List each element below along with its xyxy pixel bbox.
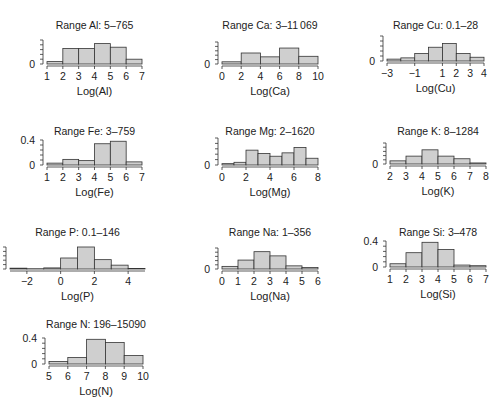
x-tick-label: 2 bbox=[453, 67, 459, 79]
x-tick-label: 5 bbox=[46, 370, 52, 382]
y-axis: 00.4 bbox=[20, 134, 43, 171]
y-tick-label: 0 bbox=[29, 58, 35, 70]
x-tick-label: −2 bbox=[21, 275, 33, 287]
panel-title: Range Al: 5–765 bbox=[56, 19, 134, 31]
y-axis: 0 bbox=[204, 42, 218, 70]
x-tick-label: 4 bbox=[257, 70, 263, 82]
x-tick-label: 4 bbox=[92, 171, 98, 183]
x-tick-label: 2 bbox=[60, 70, 66, 82]
x-tick-label: 7 bbox=[84, 370, 90, 382]
y-axis: 00.4 bbox=[22, 332, 45, 370]
panel-title: Range K: 8–1284 bbox=[397, 125, 479, 137]
x-axis-label: Log(K) bbox=[421, 185, 454, 197]
x-tick-label: 6 bbox=[291, 171, 297, 183]
x-axis: −3−11234 bbox=[381, 63, 487, 79]
histogram-panel: Range Na: 1–3560123456Log(Na)0 bbox=[204, 226, 321, 302]
x-axis-label: Log(Fe) bbox=[75, 186, 114, 198]
x-axis: 02468 bbox=[219, 167, 321, 183]
histogram-bar bbox=[470, 57, 484, 61]
histogram-bar bbox=[63, 48, 79, 64]
x-tick-label: 6 bbox=[451, 170, 457, 182]
x-tick-label: 3 bbox=[76, 70, 82, 82]
histogram-bar bbox=[387, 59, 401, 61]
histogram-panel: Range K: 8–12842345678Log(K)0 bbox=[372, 125, 489, 197]
histogram-bar bbox=[299, 56, 318, 64]
x-axis-label: Log(N) bbox=[79, 385, 113, 397]
panel-title: Range P: 0.1–146 bbox=[35, 226, 120, 238]
histogram-bar bbox=[110, 47, 126, 64]
x-tick-label: 6 bbox=[315, 275, 321, 287]
x-tick-label: −3 bbox=[381, 67, 393, 79]
histogram-bar bbox=[126, 59, 142, 64]
x-tick-label: 0 bbox=[219, 70, 225, 82]
x-axis-label: Log(P) bbox=[61, 290, 94, 302]
panel-title: Range Mg: 2–1620 bbox=[225, 125, 314, 137]
x-axis: 0123456 bbox=[219, 271, 321, 287]
histogram-bar bbox=[438, 249, 454, 267]
y-axis: 00.4 bbox=[363, 235, 386, 273]
histogram-bar bbox=[260, 57, 279, 64]
histogram-bar bbox=[63, 159, 79, 165]
x-tick-label: 2 bbox=[91, 275, 97, 287]
x-tick-label: 6 bbox=[123, 171, 129, 183]
x-tick-label: 6 bbox=[65, 370, 71, 382]
x-tick-label: 6 bbox=[277, 70, 283, 82]
x-axis: 2345678 bbox=[387, 166, 489, 182]
x-tick-label: 1 bbox=[440, 67, 446, 79]
x-tick-label: 1 bbox=[44, 171, 50, 183]
histogram-bar bbox=[10, 268, 27, 269]
histogram-panel: Range Ca: 3–11 0690246810Log(Ca)0 bbox=[204, 19, 324, 97]
histogram-bar bbox=[78, 247, 95, 269]
histogram-bar bbox=[95, 44, 111, 64]
x-tick-label: 4 bbox=[283, 275, 289, 287]
histogram-bar bbox=[415, 54, 429, 62]
x-tick-label: 0 bbox=[219, 275, 225, 287]
y-tick-label: 0 bbox=[204, 159, 210, 171]
x-tick-label: 8 bbox=[315, 171, 321, 183]
panel-title: Range Na: 1–356 bbox=[229, 226, 311, 238]
x-tick-label: 4 bbox=[435, 273, 441, 285]
x-tick-label: 8 bbox=[483, 170, 489, 182]
histogram-bar bbox=[254, 252, 270, 269]
x-axis: 5678910 bbox=[46, 366, 149, 382]
histogram-bar bbox=[282, 153, 294, 165]
histogram-bar bbox=[49, 361, 68, 364]
y-tick-label: 0 bbox=[29, 159, 35, 171]
x-tick-label: 1 bbox=[44, 70, 50, 82]
histogram-panel: Range Cu: 0.1–28−3−11234Log(Cu)0 bbox=[369, 19, 487, 94]
x-tick-label: 4 bbox=[267, 171, 273, 183]
panel-title: Range Si: 3–478 bbox=[399, 226, 477, 238]
x-tick-label: 3 bbox=[419, 273, 425, 285]
histogram-bar bbox=[280, 48, 299, 64]
histogram-bar bbox=[241, 53, 260, 64]
histogram-grid: Range Al: 5–7651234567Log(Al)0Range Ca: … bbox=[0, 0, 501, 412]
histogram-bar bbox=[94, 260, 111, 269]
x-axis-label: Log(Ca) bbox=[250, 85, 290, 97]
histogram-bar bbox=[294, 147, 306, 165]
x-tick-label: 7 bbox=[467, 170, 473, 182]
panel-title: Range Fe: 3–759 bbox=[54, 125, 135, 137]
histogram-bar bbox=[44, 268, 61, 269]
x-tick-label: 7 bbox=[483, 273, 489, 285]
histogram-bar bbox=[302, 267, 318, 269]
histogram-panel: Range Al: 5–7651234567Log(Al)0 bbox=[29, 19, 145, 97]
x-tick-label: 4 bbox=[125, 275, 131, 287]
x-axis-label: Log(Na) bbox=[250, 290, 290, 302]
histogram-bar bbox=[68, 358, 87, 365]
x-axis-label: Log(Si) bbox=[420, 288, 455, 300]
y-axis: 0 bbox=[29, 40, 43, 70]
histogram-bar bbox=[286, 266, 302, 269]
x-tick-label: 2 bbox=[243, 171, 249, 183]
histogram-panel: Range Mg: 2–162002468Log(Mg)0 bbox=[204, 125, 321, 198]
x-axis: 1234567 bbox=[44, 167, 145, 183]
histogram-bar bbox=[246, 150, 258, 165]
histogram-bar bbox=[79, 161, 95, 165]
histogram-panel: Range N: 196–150905678910Log(N)00.4 bbox=[22, 318, 149, 397]
histogram-bar bbox=[124, 356, 143, 364]
histogram-bar bbox=[47, 62, 63, 64]
histogram-bar bbox=[238, 260, 254, 269]
x-axis: −2024 bbox=[10, 271, 145, 287]
x-tick-label: −1 bbox=[409, 67, 421, 79]
histogram-bar bbox=[429, 47, 443, 61]
x-tick-label: 6 bbox=[467, 273, 473, 285]
